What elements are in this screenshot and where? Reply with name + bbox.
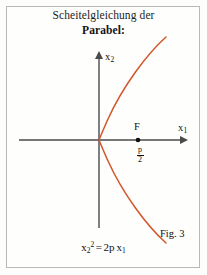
- figure-caption: Fig. 3: [160, 228, 185, 239]
- y-axis-label-subscript: 2: [110, 55, 114, 64]
- focus-label: F: [134, 121, 140, 132]
- equation-rhs-variable: x: [114, 241, 122, 253]
- fraction-denominator: 2: [134, 156, 146, 165]
- equation-rhs-subscript: 1: [122, 246, 126, 255]
- focus-distance-fraction: p 2: [134, 146, 146, 164]
- parabola-figure-card: Scheitelgleichung der Parabel:: [0, 0, 207, 275]
- x-axis-label-subscript: 1: [183, 126, 187, 135]
- x-axis-label: x1: [178, 122, 187, 135]
- fraction-numerator: p: [134, 146, 146, 155]
- focus-point-marker: [136, 138, 141, 143]
- y-axis-label: x2: [105, 51, 114, 64]
- parabola-equation: x22=2px1: [0, 240, 207, 255]
